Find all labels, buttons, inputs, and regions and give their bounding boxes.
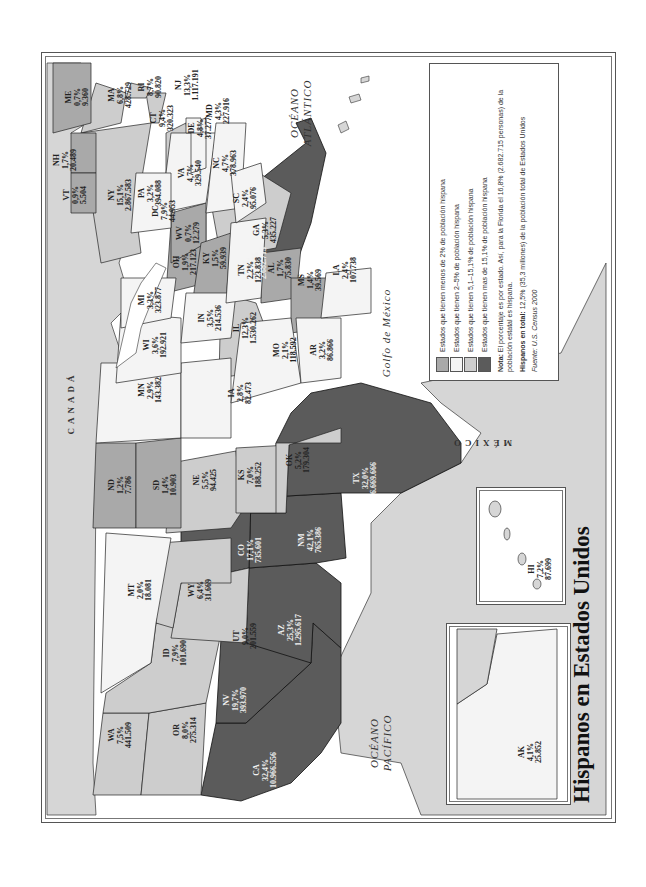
label-il: IL12,3%1.530.262 bbox=[233, 312, 259, 344]
label-ia: IA2,8%82.473 bbox=[228, 382, 254, 404]
label-wy: WY6,4%31.669 bbox=[188, 579, 214, 601]
legend-swatch bbox=[436, 357, 449, 372]
legend-source: Fuente: U.S. Census 2000 bbox=[531, 72, 538, 372]
label-hi: HI7,2%87.699 bbox=[528, 558, 554, 580]
legend-label: Estados que tienen 2–5% de población his… bbox=[453, 204, 460, 352]
legend-swatch bbox=[464, 357, 477, 372]
label-mo: MO2,1%118.592 bbox=[273, 337, 299, 363]
label-mt: MT2,0%18.081 bbox=[128, 579, 154, 601]
label-tx: TX32,0%6.669.666 bbox=[353, 462, 379, 494]
gulf-of-mexico-label: Golfo de México bbox=[380, 289, 393, 377]
canada-label: CANADÁ bbox=[66, 372, 76, 435]
label-nm: NM42,1%765.386 bbox=[298, 527, 324, 553]
label-ak: AK4,1%25.852 bbox=[518, 741, 544, 763]
atlantic-ocean-label: OCÉANO ATLÁNTICO bbox=[288, 80, 314, 147]
atlantic-line-2: ATLÁNTICO bbox=[301, 80, 313, 147]
label-md: MD4,3%227.916 bbox=[206, 98, 232, 124]
label-wv: WV0,7%12.279 bbox=[176, 222, 202, 244]
label-co: CO17,1%735.601 bbox=[238, 537, 264, 563]
alaska-inset: AK4,1%25.852 bbox=[446, 623, 571, 805]
label-or: OR8,0%275.314 bbox=[173, 717, 199, 743]
total-text: 12,5% (35,3 millones) de la población to… bbox=[519, 117, 526, 310]
pacific-ocean-label: OCÉANO PACÍFICO bbox=[368, 715, 394, 772]
label-ri: RI8,7%90.820 bbox=[138, 76, 164, 98]
legend-item-5to15: Estados que tienen 5,1–15,1% de població… bbox=[464, 72, 477, 372]
label-wi: WI3,6%192.921 bbox=[143, 332, 169, 358]
label-ma: MA6,8%428.729 bbox=[108, 82, 134, 108]
hawaii-inset: HI7,2%87.699 bbox=[476, 487, 566, 605]
label-oh: OH1,9%217.123 bbox=[173, 249, 199, 275]
label-al: AL1,7%75.830 bbox=[268, 257, 294, 279]
legend-swatch bbox=[450, 357, 463, 372]
note-text: El porcentaje es por estado. Así, para l… bbox=[497, 90, 513, 372]
label-sd: SD1,4%10.903 bbox=[153, 474, 179, 496]
label-ne: NE5,5%94.425 bbox=[193, 469, 219, 491]
legend-note: Nota: El porcentaje es por estado. Así, … bbox=[497, 72, 514, 372]
label-dc: DC7,9%44.953 bbox=[152, 200, 178, 222]
caribbean-island bbox=[349, 94, 361, 103]
label-vt: VT0,9%5.504 bbox=[63, 186, 89, 204]
label-me: ME0,7%9.360 bbox=[65, 88, 91, 106]
legend: Estados que tienen menos de 2% de poblac… bbox=[429, 63, 559, 381]
label-in: IN3,5%214.536 bbox=[198, 305, 224, 331]
legend-item-gt15: Estados que tienen mas de 15,1% de pobla… bbox=[478, 72, 491, 372]
label-nh: NH1,7%20.489 bbox=[53, 149, 79, 171]
label-nc: NC4,7%378.963 bbox=[213, 150, 239, 176]
caribbean-island bbox=[338, 121, 349, 133]
label-az: AZ25,3%1.295.617 bbox=[278, 614, 304, 646]
legend-label: Estados que tienen mas de 15,1% de pobla… bbox=[481, 177, 488, 352]
mexico-label: MÉXICO bbox=[450, 438, 512, 448]
label-ok: OK5,2%179.304 bbox=[286, 447, 312, 473]
note-label: Nota: bbox=[497, 354, 504, 372]
pacific-line-1: OCÉANO bbox=[368, 718, 380, 768]
label-ut: UT9,0%201.559 bbox=[233, 623, 259, 649]
legend-item-lt2: Estados que tienen menos de 2% de poblac… bbox=[436, 72, 449, 372]
label-ar: AR3,2%86.866 bbox=[310, 339, 336, 361]
state-ia bbox=[181, 358, 231, 438]
label-sc: SC2,4%95.076 bbox=[233, 187, 259, 209]
label-tn: TN2,2%123.838 bbox=[238, 257, 264, 283]
atlantic-line-1: OCÉANO bbox=[288, 88, 300, 138]
legend-item-2to5: Estados que tienen 2–5% de población his… bbox=[450, 72, 463, 372]
label-nd: ND1,2%7.786 bbox=[108, 476, 134, 494]
pacific-line-2: PACÍFICO bbox=[381, 715, 393, 772]
label-nj: NJ13,3%1.117.191 bbox=[175, 69, 201, 101]
legend-total: Hispanos en total: 12,5% (35,3 millones)… bbox=[519, 72, 526, 372]
map-canvas: CANADÁ MÉXICO OCÉANO ATLÁNTICO OCÉANO PA… bbox=[41, 52, 616, 823]
alaska-shape bbox=[447, 622, 572, 804]
caribbean-island bbox=[361, 76, 369, 83]
label-ms: MS1,4%39.569 bbox=[298, 269, 324, 291]
label-ks: KS7,0%188.252 bbox=[238, 462, 264, 488]
legend-label: Estados que tienen 5,1–15,1% de població… bbox=[467, 189, 474, 352]
label-id: ID7,9%101.690 bbox=[163, 640, 189, 666]
page-title: Hispanos en Estados Unidos bbox=[569, 526, 595, 803]
label-mn: MN2,9%143.382 bbox=[138, 377, 164, 403]
total-label: Hispanos en total: bbox=[519, 311, 526, 372]
label-ca: CA32,4%10.966.556 bbox=[253, 752, 279, 788]
label-wa: WA7,5%441.509 bbox=[108, 722, 134, 748]
label-va: VA4,7%329.540 bbox=[178, 160, 204, 186]
label-ga: GA5,3%435.227 bbox=[253, 217, 279, 243]
label-la: LA2,4%107.738 bbox=[333, 257, 359, 283]
label-mi: MI3,3%323.877 bbox=[138, 287, 164, 313]
legend-label: Estados que tienen menos de 2% de poblac… bbox=[439, 179, 446, 352]
label-ky: KY1,5%59.939 bbox=[203, 247, 229, 269]
label-ny: NY15,1%2.867.583 bbox=[108, 179, 134, 211]
legend-swatch bbox=[478, 357, 491, 372]
label-nv: NV19,7%393.970 bbox=[223, 687, 249, 713]
label-ct: CT9,4%320.323 bbox=[150, 105, 176, 131]
hawaii-shape bbox=[477, 486, 567, 604]
